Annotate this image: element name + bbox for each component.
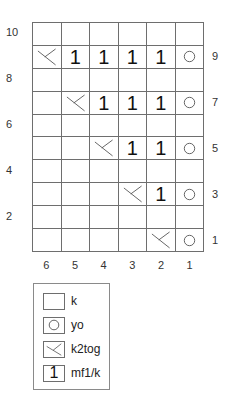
row-number-label: 6 bbox=[6, 119, 26, 130]
chart-cell bbox=[119, 160, 148, 183]
chart-cell bbox=[62, 160, 91, 183]
yarn-over-icon bbox=[183, 188, 196, 201]
make-one-icon: 1 bbox=[155, 184, 166, 204]
yarn-over-icon bbox=[183, 142, 196, 155]
knit-symbol-icon bbox=[43, 293, 65, 310]
yarn-over-icon bbox=[183, 96, 196, 109]
chart-cell bbox=[147, 160, 176, 183]
chart-cell bbox=[33, 137, 62, 160]
chart-cell bbox=[62, 115, 91, 138]
legend-item-k2tog: k2tog bbox=[43, 340, 100, 358]
chart-cell bbox=[33, 115, 62, 138]
legend-item-mf1: 1 mf1/k bbox=[43, 364, 100, 382]
chart-cell: 1 bbox=[90, 92, 119, 115]
make-one-icon: 1 bbox=[70, 47, 81, 67]
chart-cell: 1 bbox=[147, 46, 176, 69]
chart-cell bbox=[33, 206, 62, 229]
column-number-label: 5 bbox=[61, 260, 90, 271]
chart-cell bbox=[90, 206, 119, 229]
chart-cell bbox=[119, 183, 148, 206]
chart-cell: 1 bbox=[119, 137, 148, 160]
column-number-label: 2 bbox=[147, 260, 176, 271]
k2tog-icon bbox=[147, 229, 175, 251]
row-number-label: 9 bbox=[212, 51, 218, 62]
chart-cell bbox=[33, 160, 62, 183]
chart-cell bbox=[119, 115, 148, 138]
chart-cell bbox=[90, 183, 119, 206]
chart-cell bbox=[33, 69, 62, 92]
chart-cell bbox=[62, 69, 91, 92]
chart-cell bbox=[62, 92, 91, 115]
legend-label-knit: k bbox=[71, 294, 77, 308]
chart-cell bbox=[176, 115, 205, 138]
make-one-icon: 1 bbox=[43, 365, 65, 382]
chart-cell: 1 bbox=[62, 46, 91, 69]
knitting-chart-grid: 1111111111 bbox=[32, 22, 204, 252]
k2tog-icon bbox=[62, 92, 90, 114]
k2tog-icon bbox=[90, 137, 118, 159]
make-one-icon: 1 bbox=[98, 93, 109, 113]
legend: k yo k2tog 1 mf1/k bbox=[33, 283, 110, 390]
chart-cell bbox=[62, 23, 91, 46]
make-one-icon: 1 bbox=[98, 47, 109, 67]
chart-cell bbox=[90, 229, 119, 252]
make-one-icon: 1 bbox=[155, 93, 166, 113]
chart-cell bbox=[33, 23, 62, 46]
chart-cell bbox=[62, 183, 91, 206]
chart-cell bbox=[62, 229, 91, 252]
row-number-label: 1 bbox=[212, 235, 218, 246]
chart-cell bbox=[33, 183, 62, 206]
chart-cell bbox=[33, 229, 62, 252]
row-number-label: 7 bbox=[212, 97, 218, 108]
chart-cell bbox=[176, 206, 205, 229]
k2tog-icon bbox=[33, 46, 61, 68]
column-number-label: 6 bbox=[32, 260, 61, 271]
row-number-label: 2 bbox=[6, 211, 26, 222]
column-number-label: 3 bbox=[118, 260, 147, 271]
chart-cell bbox=[62, 137, 91, 160]
chart-cell bbox=[176, 183, 205, 206]
chart-cell bbox=[33, 92, 62, 115]
chart-cell: 1 bbox=[147, 92, 176, 115]
chart-cell: 1 bbox=[147, 137, 176, 160]
k2tog-icon bbox=[43, 341, 65, 358]
row-number-label: 5 bbox=[212, 143, 218, 154]
chart-cell bbox=[119, 23, 148, 46]
chart-cell bbox=[176, 23, 205, 46]
chart-cell bbox=[62, 206, 91, 229]
legend-item-yarn-over: yo bbox=[43, 316, 84, 334]
chart-cell bbox=[176, 137, 205, 160]
chart-cell bbox=[90, 23, 119, 46]
chart-cell bbox=[90, 69, 119, 92]
chart-cell bbox=[176, 46, 205, 69]
chart-cell bbox=[176, 160, 205, 183]
chart-cell: 1 bbox=[90, 46, 119, 69]
chart-cell bbox=[119, 229, 148, 252]
make-one-icon: 1 bbox=[127, 138, 138, 158]
chart-cell bbox=[176, 92, 205, 115]
k2tog-icon bbox=[119, 183, 147, 205]
make-one-icon: 1 bbox=[127, 93, 138, 113]
chart-cell bbox=[33, 46, 62, 69]
chart-cell bbox=[176, 69, 205, 92]
chart-cell bbox=[176, 229, 205, 252]
row-number-label: 3 bbox=[212, 189, 218, 200]
make-one-icon: 1 bbox=[127, 47, 138, 67]
chart-cell bbox=[90, 137, 119, 160]
legend-label-k2tog: k2tog bbox=[71, 342, 100, 356]
chart-cell bbox=[90, 115, 119, 138]
chart-cell: 1 bbox=[147, 183, 176, 206]
row-number-label: 4 bbox=[6, 165, 26, 176]
chart-cell: 1 bbox=[119, 46, 148, 69]
yarn-over-icon bbox=[43, 317, 65, 334]
chart-cell bbox=[147, 206, 176, 229]
legend-label-mf1: mf1/k bbox=[71, 366, 100, 380]
chart-cell bbox=[147, 23, 176, 46]
row-number-label: 10 bbox=[6, 27, 26, 38]
chart-cell bbox=[119, 69, 148, 92]
yarn-over-icon bbox=[183, 234, 196, 247]
legend-label-yarn-over: yo bbox=[71, 318, 84, 332]
yarn-over-icon bbox=[183, 50, 196, 63]
chart-cell: 1 bbox=[119, 92, 148, 115]
chart-cell bbox=[119, 206, 148, 229]
